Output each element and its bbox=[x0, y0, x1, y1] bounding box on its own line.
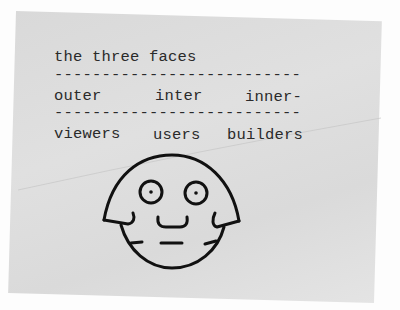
right-pupil bbox=[194, 191, 198, 195]
cartoon-face-icon bbox=[0, 0, 400, 310]
nose bbox=[158, 217, 187, 227]
left-pupil bbox=[149, 190, 153, 194]
head-dome bbox=[104, 155, 239, 221]
